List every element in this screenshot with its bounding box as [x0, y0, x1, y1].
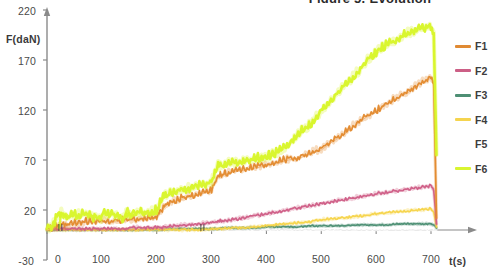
y-tick-label: 170 [2, 55, 36, 67]
legend-item-f4[interactable]: F4 [455, 108, 495, 133]
legend-swatch-f4 [455, 118, 471, 121]
x-tick-label: 500 [301, 253, 341, 265]
y-tick-label: -30 [0, 255, 34, 267]
legend-swatch-f6 [455, 167, 471, 170]
x-tick-label: 400 [246, 253, 286, 265]
chart-legend: F1 F2 F3 F4 F5 F6 [455, 34, 495, 181]
x-tick-label: 200 [136, 253, 176, 265]
x-tick-label: 300 [191, 253, 231, 265]
legend-item-f2[interactable]: F2 [455, 59, 495, 84]
x-tick-label: 600 [356, 253, 396, 265]
legend-label-f3: F3 [475, 89, 488, 101]
figure-container: Figure 5. Evolution 220 170 120 70 20 -3… [0, 0, 495, 278]
x-tick-label: 700 [411, 253, 451, 265]
legend-item-f5[interactable]: F5 [455, 132, 495, 157]
x-tick-label: 0 [38, 253, 78, 265]
legend-swatch-f3 [455, 94, 471, 97]
y-tick-label: 20 [2, 205, 36, 217]
y-axis-title: F(daN) [6, 33, 40, 45]
chart-plot-area [0, 0, 495, 278]
legend-label-f6: F6 [475, 163, 488, 175]
legend-item-f3[interactable]: F3 [455, 83, 495, 108]
y-tick-label: 120 [2, 105, 36, 117]
legend-label-f4: F4 [475, 114, 488, 126]
y-tick-label: 220 [2, 5, 36, 17]
x-axis-title: t(s) [449, 255, 466, 267]
x-tick-label: 100 [81, 253, 121, 265]
legend-swatch-f2 [455, 69, 471, 72]
legend-item-f1[interactable]: F1 [455, 34, 495, 59]
legend-item-f6[interactable]: F6 [455, 157, 495, 182]
y-tick-label: 70 [2, 155, 36, 167]
legend-swatch-f5 [455, 143, 471, 146]
legend-label-f5: F5 [475, 138, 488, 150]
legend-label-f1: F1 [475, 40, 488, 52]
legend-swatch-f1 [455, 45, 471, 48]
chart-svg [0, 0, 495, 278]
legend-label-f2: F2 [475, 65, 488, 77]
